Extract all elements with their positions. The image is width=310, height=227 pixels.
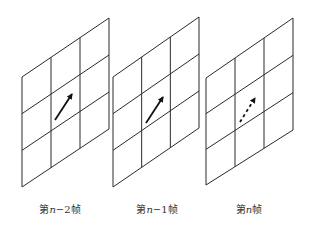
- grid-row-line: [206, 93, 293, 150]
- grid-row-line: [113, 128, 199, 187]
- frame-n-minus-1-grid: [113, 17, 199, 187]
- grid-row-line: [22, 129, 109, 187]
- label-prefix: 第: [136, 204, 146, 215]
- frame-n-minus-2-label: 第n−2帧: [39, 201, 80, 216]
- grid-row-line: [113, 91, 199, 150]
- grid-row-line: [206, 18, 293, 78]
- frame-n-label: 第n帧: [236, 201, 262, 216]
- motion-vector-arrow-icon: [146, 97, 163, 123]
- label-suffix: 帧: [252, 204, 262, 215]
- grid-row-line: [22, 18, 109, 77]
- frame-sequence-diagram: [0, 0, 310, 227]
- label-prefix: 第: [39, 204, 49, 215]
- grid-row-line: [206, 55, 293, 113]
- grid-row-line: [113, 17, 199, 77]
- grid-row-line: [22, 92, 109, 150]
- frame-n-minus-1-label: 第n−1帧: [136, 201, 177, 216]
- label-suffix: −2帧: [56, 204, 81, 215]
- frame-n-minus-2-grid: [22, 18, 109, 187]
- label-suffix: −1帧: [153, 204, 178, 215]
- grid-row-line: [206, 130, 293, 185]
- frame-n-grid: [206, 18, 293, 185]
- grid-row-line: [113, 54, 199, 114]
- label-prefix: 第: [236, 204, 246, 215]
- motion-vector-arrow-icon: [55, 94, 72, 120]
